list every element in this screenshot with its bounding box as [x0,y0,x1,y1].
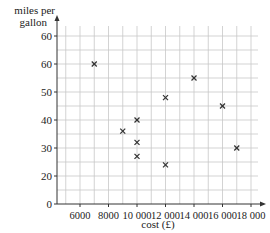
y-tick-label: 60 [41,58,53,70]
y-axis-label-line-2: gallon [20,16,48,28]
y-tick-label: 60 [41,30,53,42]
x-axis-label: cost (£) [141,218,175,231]
x-tick-label: 16 000 [208,210,237,221]
y-tick-label: 40 [41,114,53,126]
y-tick-label: 0 [47,198,53,210]
y-axis-ticks: 0203040506060 [41,30,57,210]
y-tick-label: 20 [41,170,53,182]
scatter-chart: 0203040506060 6000800010 00012 00014 000… [0,0,270,233]
x-tick-label: 8000 [98,210,119,221]
x-tick-label: 14 000 [180,210,209,221]
y-axis-label-line-1: miles per [14,4,55,16]
y-tick-label: 50 [41,86,53,98]
grid [57,26,258,204]
x-tick-label: 6000 [70,210,91,221]
y-tick-label: 30 [41,142,53,154]
axes [55,15,267,207]
x-tick-label: 18 000 [237,210,266,221]
